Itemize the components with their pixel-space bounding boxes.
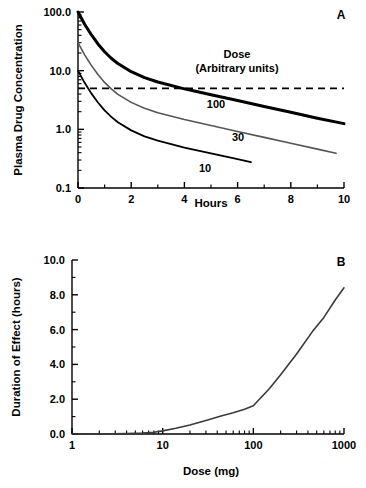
panel-b: 11010010000.02.04.06.08.010.0 Dose (mg) … <box>10 254 356 477</box>
panel-a-x-axis-title: Hours <box>194 197 227 209</box>
panel-b-xtick-10: 10 <box>157 439 169 451</box>
panel-a-label: A <box>337 8 346 22</box>
panel-b-label: B <box>337 255 346 269</box>
series-label-10: 10 <box>199 162 211 174</box>
panel-b-ytick-6.0: 6.0 <box>50 324 65 336</box>
series-label-100: 100 <box>207 98 225 110</box>
panel-a-xtick-6: 6 <box>235 193 241 205</box>
panel-b-xtick-100: 100 <box>244 439 262 451</box>
panel-a-axes: 02468100.11.010.0100.0 <box>43 6 350 205</box>
panel-a-xtick-4: 4 <box>181 193 188 205</box>
panel-a-xtick-8: 8 <box>288 193 294 205</box>
panel-a-xtick-10: 10 <box>338 193 350 205</box>
panel-a: 02468100.11.010.0100.0 Hours Plasma Drug… <box>12 6 350 209</box>
legend-subtitle-units: (Arbitrary units) <box>195 62 278 74</box>
series-label-30: 30 <box>232 131 244 143</box>
panel-b-ytick-8.0: 8.0 <box>50 289 65 301</box>
legend-title-dose: Dose <box>224 48 251 60</box>
panel-b-ytick-0.0: 0.0 <box>50 428 65 440</box>
panel-a-curves <box>78 12 344 162</box>
panel-b-ytick-10.0: 10.0 <box>44 254 65 266</box>
panel-b-ytick-2.0: 2.0 <box>50 393 65 405</box>
panel-b-ytick-4.0: 4.0 <box>50 358 65 370</box>
panel-a-xtick-2: 2 <box>128 193 134 205</box>
pharmacokinetics-figure: 02468100.11.010.0100.0 Hours Plasma Drug… <box>0 0 366 488</box>
panel-a-ytick-10.0: 10.0 <box>50 65 71 77</box>
panel-b-xtick-1: 1 <box>69 439 75 451</box>
panel-b-xtick-1000: 1000 <box>332 439 356 451</box>
panel-b-curves <box>72 288 344 434</box>
panel-a-y-axis-title: Plasma Drug Concentration <box>12 24 24 175</box>
panel-b-y-axis-title: Duration of Effect (hours) <box>10 277 22 416</box>
panel-b-duration-curve <box>72 288 344 434</box>
panel-a-ytick-100.0: 100.0 <box>43 6 71 18</box>
panel-b-x-axis-title: Dose (mg) <box>183 465 239 477</box>
figure-container: 02468100.11.010.0100.0 Hours Plasma Drug… <box>0 0 366 488</box>
panel-a-ytick-0.1: 0.1 <box>56 182 71 194</box>
panel-a-xtick-0: 0 <box>75 193 81 205</box>
panel-a-ytick-1.0: 1.0 <box>56 123 71 135</box>
